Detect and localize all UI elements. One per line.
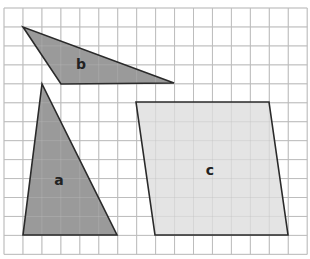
label-b: b	[76, 56, 86, 72]
label-a: a	[54, 172, 63, 188]
label-c: c	[206, 162, 214, 178]
grid-diagram: b a c	[0, 0, 310, 259]
